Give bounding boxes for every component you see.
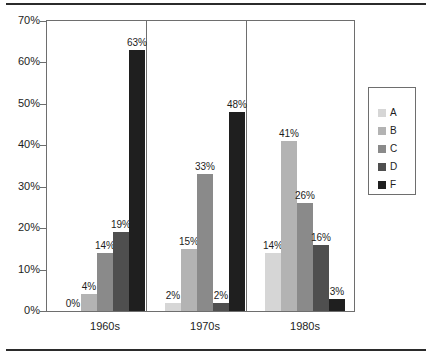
bar-1980s-C[interactable] [297, 203, 313, 311]
bar-1960s-B[interactable] [81, 294, 97, 311]
y-axis-tick-label: 40% [2, 138, 40, 150]
chart-legend: ABCDF [368, 87, 416, 195]
bar-value-label: 2% [166, 290, 180, 301]
y-axis-tick-label: 0% [2, 304, 40, 316]
legend-item-F[interactable]: F [378, 177, 397, 193]
bar-1980s-F[interactable] [329, 299, 345, 311]
bar-1970s-A[interactable] [165, 303, 181, 311]
legend-swatch-icon [378, 163, 386, 171]
top-divider-rule [6, 3, 426, 5]
bar-1960s-D[interactable] [113, 232, 129, 311]
legend-item-label: A [390, 108, 397, 118]
legend-item-label: C [390, 144, 397, 154]
legend-item-label: B [390, 126, 397, 136]
legend-item-B[interactable]: B [378, 123, 397, 139]
legend-item-A[interactable]: A [378, 105, 397, 121]
legend-item-D[interactable]: D [378, 159, 397, 175]
x-axis-category-label-1970s: 1970s [190, 320, 220, 332]
bar-1980s-A[interactable] [265, 253, 281, 311]
bar-value-label: 16% [311, 232, 331, 243]
bar-value-label: 33% [195, 161, 215, 172]
bar-1970s-B[interactable] [181, 249, 197, 311]
bar-value-label: 19% [111, 219, 131, 230]
legend-swatch-icon [378, 145, 386, 153]
x-axis-category-label-1960s: 1960s [90, 320, 120, 332]
bar-chart-figure: 0%10%20%30%40%50%60%70% 0%4%14%19%63%2%1… [0, 8, 432, 346]
bar-value-label: 0% [66, 298, 80, 309]
bar-1980s-B[interactable] [281, 141, 297, 311]
y-axis-tick-label: 30% [2, 180, 40, 192]
bar-1970s-D[interactable] [213, 303, 229, 311]
y-axis-tick-label: 60% [2, 55, 40, 67]
bar-value-label: 3% [330, 286, 344, 297]
bar-value-label: 41% [279, 128, 299, 139]
bar-value-label: 14% [95, 240, 115, 251]
y-axis-tick-label: 20% [2, 221, 40, 233]
bar-1960s-F[interactable] [129, 50, 145, 311]
legend-item-label: F [390, 180, 396, 190]
bar-value-label: 48% [227, 99, 247, 110]
bar-value-label: 14% [263, 240, 283, 251]
legend-item-C[interactable]: C [378, 141, 397, 157]
legend-swatch-icon [378, 181, 386, 189]
legend-item-label: D [390, 162, 397, 172]
x-axis-category-label-1980s: 1980s [290, 320, 320, 332]
y-axis-tick-label: 10% [2, 263, 40, 275]
y-axis: 0%10%20%30%40%50%60%70% [0, 8, 40, 346]
bottom-divider-rule [6, 349, 426, 351]
bar-1970s-C[interactable] [197, 174, 213, 311]
bar-value-label: 15% [179, 236, 199, 247]
bars-layer: 0%4%14%19%63%2%15%33%2%48%14%41%26%16%3% [47, 21, 354, 311]
bar-value-label: 4% [82, 281, 96, 292]
y-axis-tick-label: 70% [2, 14, 40, 26]
bar-1960s-C[interactable] [97, 253, 113, 311]
bar-1970s-F[interactable] [229, 112, 245, 311]
bar-1980s-D[interactable] [313, 245, 329, 311]
legend-swatch-icon [378, 127, 386, 135]
bar-value-label: 2% [214, 290, 228, 301]
legend-swatch-icon [378, 109, 386, 117]
y-axis-tick-label: 50% [2, 97, 40, 109]
bar-value-label: 63% [127, 37, 147, 48]
bar-value-label: 26% [295, 190, 315, 201]
